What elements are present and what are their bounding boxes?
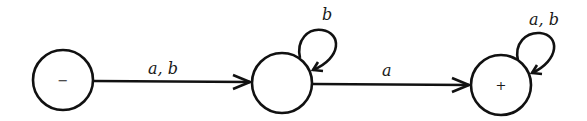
transition-label-s3-s3: a, b — [529, 10, 559, 29]
transition-s2-s3: a — [313, 61, 469, 92]
state-start: − — [33, 50, 93, 110]
transition-s2-s2: b — [299, 5, 336, 71]
transition-label-s1-s2: a, b — [148, 59, 178, 78]
final-state-marker: + — [496, 78, 507, 93]
state-intermediate — [252, 53, 312, 113]
automaton-diagram: a, b b a a, b − + — [0, 0, 587, 121]
transition-label-s2-s2: b — [322, 5, 332, 24]
transition-s1-s2: a, b — [94, 59, 250, 89]
start-state-marker: − — [58, 73, 69, 88]
state-final: + — [471, 55, 531, 115]
transition-label-s2-s3: a — [382, 61, 392, 80]
